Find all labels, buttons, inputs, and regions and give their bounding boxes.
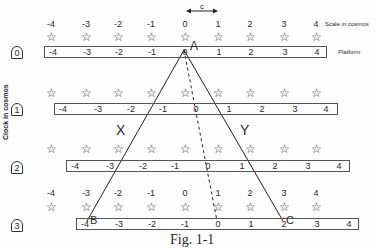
star-icon: ☆ [180, 201, 191, 213]
platform-row-3: -4 -3 -2 -1 0 1 2 3 4 [76, 218, 359, 230]
platform-tick: -4 [71, 162, 79, 171]
scale-tick: -2 [114, 20, 122, 29]
figure-1-1: c -4 -3 -2 -1 0 1 2 3 4 Scale in cosmos … [0, 0, 377, 249]
region-y-label: Y [240, 123, 249, 137]
platform-tick: -3 [83, 48, 91, 57]
platform-tick: -4 [59, 105, 67, 114]
scale-tick: 3 [281, 20, 286, 29]
platform-row-1: -4 -3 -2 -1 0 1 2 3 4 [54, 103, 338, 115]
platform-tick: 3 [305, 162, 310, 171]
star-icon: ☆ [46, 201, 57, 213]
star-icon: ☆ [81, 87, 92, 99]
scale-tick: 3 [281, 189, 286, 198]
star-icon: ☆ [279, 143, 290, 155]
star-icon: ☆ [81, 31, 92, 43]
star-icon: ☆ [180, 31, 191, 43]
star-icon: ☆ [146, 201, 157, 213]
star-icon: ☆ [245, 87, 256, 99]
star-icon: ☆ [311, 201, 322, 213]
platform-tick: 2 [248, 48, 253, 57]
platform-tick: 0 [193, 105, 198, 114]
platform-tick: -2 [127, 105, 135, 114]
scale-tick: -2 [114, 189, 122, 198]
platform-tick: 4 [314, 48, 319, 57]
platform-tick: 0 [205, 162, 210, 171]
star-icon: ☆ [46, 143, 57, 155]
clock-icon-2: 2 [11, 161, 23, 174]
star-icon: ☆ [180, 87, 191, 99]
platform-tick: -3 [94, 105, 102, 114]
platform-tick: -3 [115, 220, 123, 229]
star-icon: ☆ [213, 31, 224, 43]
star-icon: ☆ [245, 201, 256, 213]
star-icon: ☆ [113, 201, 124, 213]
star-icon: ☆ [311, 143, 322, 155]
platform-tick: -1 [171, 162, 179, 171]
platform-tick: 4 [346, 220, 351, 229]
platform-tick: 4 [323, 105, 328, 114]
platform-tick: 1 [239, 162, 244, 171]
point-c-label: C [286, 215, 294, 226]
platform-tick: 3 [292, 105, 297, 114]
point-a-label: A [190, 40, 198, 52]
scale-tick: -3 [82, 189, 90, 198]
star-icon: ☆ [180, 143, 191, 155]
scale-tick: 1 [215, 189, 220, 198]
platform-tick: 0 [215, 220, 220, 229]
platform-tick: 1 [226, 105, 231, 114]
platform-tick: -1 [181, 220, 189, 229]
star-icon: ☆ [213, 201, 224, 213]
star-icon: ☆ [81, 201, 92, 213]
platform-tick: 2 [272, 162, 277, 171]
platform-label: Platform [338, 49, 360, 55]
platform-tick: 3 [282, 48, 287, 57]
scale-in-cosmos-label: Scale in cosmos [325, 21, 369, 27]
platform-tick: 3 [314, 220, 319, 229]
scale-tick: 2 [247, 20, 252, 29]
platform-tick: -1 [148, 48, 156, 57]
platform-tick: 4 [336, 162, 341, 171]
star-icon: ☆ [279, 201, 290, 213]
platform-tick: -4 [81, 220, 89, 229]
platform-tick: 1 [248, 220, 253, 229]
figure-caption: Fig. 1-1 [170, 232, 214, 248]
scale-tick: 4 [313, 20, 318, 29]
platform-tick: -3 [106, 162, 114, 171]
star-icon: ☆ [245, 31, 256, 43]
star-icon: ☆ [146, 31, 157, 43]
scale-tick: -1 [147, 20, 155, 29]
scale-tick: -4 [47, 20, 55, 29]
scale-tick: 1 [215, 20, 220, 29]
star-icon: ☆ [81, 143, 92, 155]
clock-icon-1: 1 [11, 103, 23, 116]
platform-row-0: -4 -3 -2 -1 0 1 2 3 4 [44, 46, 327, 58]
scale-tick: 2 [247, 189, 252, 198]
star-icon: ☆ [279, 31, 290, 43]
clock-in-cosmos-label: Clock in cosmos [2, 84, 9, 140]
region-x-label: X [116, 123, 125, 137]
star-icon: ☆ [245, 143, 256, 155]
scale-tick: -3 [82, 20, 90, 29]
platform-tick: -2 [115, 48, 123, 57]
star-icon: ☆ [311, 87, 322, 99]
star-icon: ☆ [146, 143, 157, 155]
star-icon: ☆ [46, 31, 57, 43]
platform-tick: -2 [148, 220, 156, 229]
scale-tick: 0 [182, 189, 187, 198]
platform-tick: 0 [182, 48, 187, 57]
scale-tick: -1 [147, 189, 155, 198]
star-icon: ☆ [213, 143, 224, 155]
star-icon: ☆ [279, 87, 290, 99]
platform-tick: 1 [216, 48, 221, 57]
scale-tick: -4 [47, 189, 55, 198]
star-icon: ☆ [46, 87, 57, 99]
clock-icon-3: 3 [11, 219, 23, 232]
star-icon: ☆ [113, 31, 124, 43]
point-b-label: B [90, 215, 97, 226]
star-icon: ☆ [311, 31, 322, 43]
platform-tick: -1 [159, 105, 167, 114]
platform-row-2: -4 -3 -2 -1 0 1 2 3 4 [66, 160, 350, 172]
scale-tick: 4 [313, 189, 318, 198]
star-icon: ☆ [213, 87, 224, 99]
star-icon: ☆ [146, 87, 157, 99]
